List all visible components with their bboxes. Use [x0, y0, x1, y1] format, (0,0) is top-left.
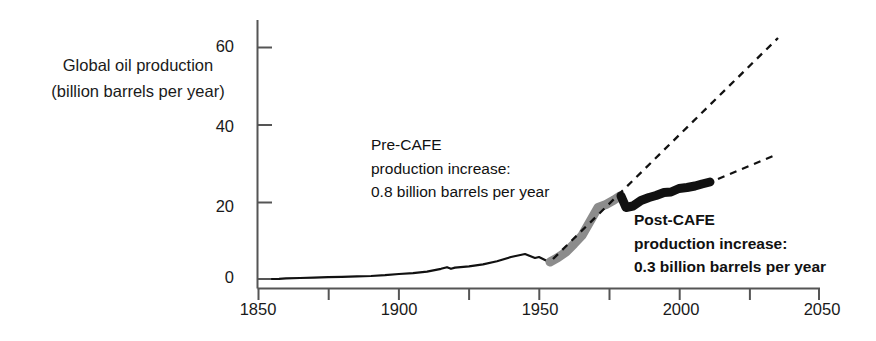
x-axis-ticks: [259, 289, 820, 301]
y-axis-ticks: [258, 48, 273, 280]
post-cafe-trend-dashed-line: [706, 154, 778, 184]
post-cafe-highlight-line: [621, 182, 710, 208]
historical-production-line: [272, 254, 549, 279]
pre-cafe-trend-dashed-line: [553, 38, 778, 259]
plot-area: [0, 0, 876, 341]
oil-production-chart: Global oil production (billion barrels p…: [0, 0, 876, 341]
